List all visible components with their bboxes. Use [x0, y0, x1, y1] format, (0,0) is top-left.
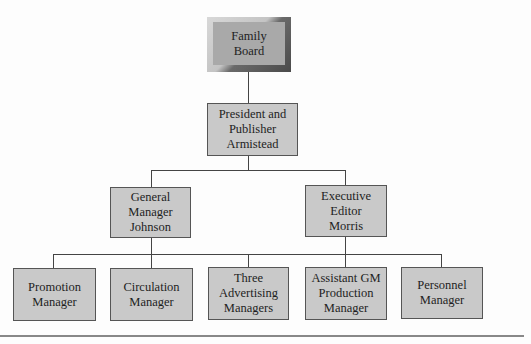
general-manager-box: General Manager Johnson: [110, 187, 191, 238]
family-board-label: Family Board: [231, 29, 266, 59]
connector-gm-up: [151, 170, 152, 187]
connector-editor-down: [345, 236, 346, 254]
connector-root-president: [248, 71, 249, 103]
promotion-manager-label: Promotion Manager: [28, 280, 81, 310]
advertising-managers-label: Three Advertising Managers: [219, 271, 278, 316]
connector-editor-up: [345, 170, 346, 185]
connector-gm-down: [151, 237, 152, 254]
personnel-manager-label: Personnel Manager: [417, 278, 466, 308]
connector-advertising-up: [248, 254, 249, 267]
personnel-manager-box: Personnel Manager: [401, 267, 483, 319]
executive-editor-label: Executive Editor Morris: [321, 189, 371, 234]
circulation-manager-label: Circulation Manager: [123, 280, 179, 310]
bottom-divider: [0, 335, 524, 337]
general-manager-label: General Manager Johnson: [128, 190, 172, 235]
production-manager-label: Assistant GM Production Manager: [311, 271, 380, 316]
connector-production-up: [345, 254, 346, 267]
connector-president-down: [248, 155, 249, 170]
family-board-box: Family Board: [207, 17, 291, 72]
promotion-manager-box: Promotion Manager: [13, 268, 96, 321]
president-box: President and Publisher Armistead: [207, 103, 298, 156]
connector-personnel-up: [441, 254, 442, 267]
production-manager-box: Assistant GM Production Manager: [305, 267, 387, 320]
advertising-managers-box: Three Advertising Managers: [208, 267, 289, 320]
president-label: President and Publisher Armistead: [219, 107, 287, 152]
executive-editor-box: Executive Editor Morris: [305, 185, 387, 237]
connector-promotion-up: [53, 254, 54, 268]
circulation-manager-box: Circulation Manager: [110, 268, 193, 321]
connector-circulation-up: [151, 254, 152, 268]
connector-level2-horizontal: [151, 170, 346, 171]
